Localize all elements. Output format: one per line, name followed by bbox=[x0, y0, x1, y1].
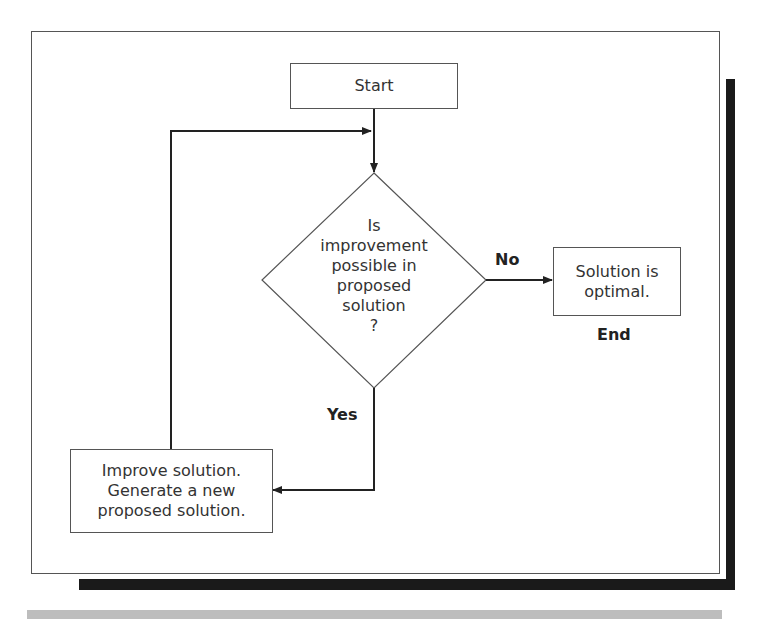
arrow-yes bbox=[273, 388, 374, 490]
start-node: Start bbox=[290, 63, 458, 109]
no-label: No bbox=[495, 250, 519, 269]
end-label: End bbox=[597, 325, 631, 344]
decision-text: Is improvement possible in proposed solu… bbox=[274, 216, 474, 336]
optimal-node: Solution is optimal. bbox=[553, 247, 681, 316]
improve-label: Improve solution. Generate a new propose… bbox=[98, 461, 246, 521]
improve-node: Improve solution. Generate a new propose… bbox=[70, 449, 273, 533]
optimal-label: Solution is optimal. bbox=[575, 262, 658, 302]
start-label: Start bbox=[354, 76, 393, 96]
yes-label: Yes bbox=[327, 405, 358, 424]
